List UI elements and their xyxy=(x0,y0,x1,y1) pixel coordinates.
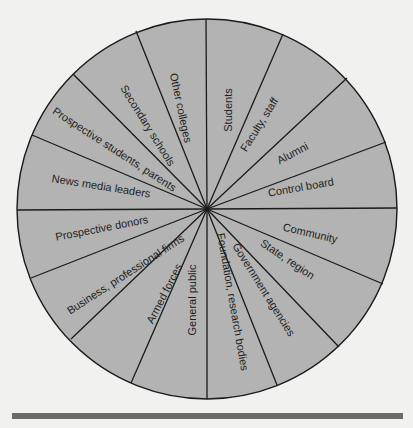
footer-rule xyxy=(12,413,403,419)
publics-wheel-diagram: StudentsFaculty, staffAlumniControl boar… xyxy=(0,0,413,428)
segment-label: Students xyxy=(222,88,234,132)
segment-label: General public xyxy=(186,264,198,335)
